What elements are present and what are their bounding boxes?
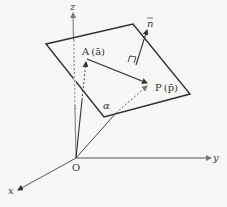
z-axis-label: z: [69, 1, 76, 12]
x-axis-label: x: [8, 185, 14, 196]
axes: [18, 13, 211, 190]
x-axis: [18, 158, 76, 190]
point-A-label: A(ā): [81, 46, 105, 57]
vector-OA-solid: [76, 100, 82, 158]
plane-alpha: [46, 24, 190, 117]
origin-label: O: [72, 162, 80, 173]
normal-vector-label: n: [147, 18, 153, 29]
y-axis-label: y: [212, 152, 219, 163]
right-angle-mark: [128, 56, 136, 63]
vector-AP: [87, 59, 147, 83]
plane-vector-diagram: z y x O α A(ā) P(p̄) n: [0, 0, 227, 207]
plane-label: α: [103, 100, 110, 111]
point-P-label: P(p̄): [155, 82, 178, 93]
vector-OP-solid: [76, 113, 116, 158]
